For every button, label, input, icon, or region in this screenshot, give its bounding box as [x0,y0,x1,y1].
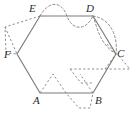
vertex-label-D: D [86,3,94,14]
vertex-label-E: E [29,3,36,14]
geometry-figure: E D C B A F [0,0,137,116]
vertex-label-A: A [33,95,40,106]
vertex-label-F: F [4,49,11,60]
hexagon-outline [17,16,116,93]
vertex-label-B: B [95,95,102,106]
dashed-zigzag-over-AB [40,74,93,108]
vertex-label-C: C [117,48,124,59]
